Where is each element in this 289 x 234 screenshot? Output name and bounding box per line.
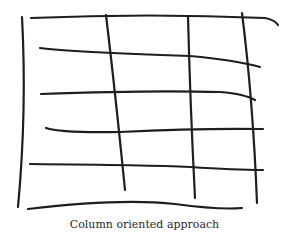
- diagram-caption: Column oriented approach: [0, 218, 289, 231]
- row-line-2: [40, 48, 260, 67]
- column-line-2: [188, 16, 195, 198]
- row-line-1: [31, 16, 278, 26]
- column-line-1: [106, 15, 125, 190]
- hand-drawn-grid: [0, 0, 289, 234]
- bottom-line: [28, 202, 242, 209]
- row-line-3: [41, 91, 255, 100]
- left-border-line: [18, 17, 24, 207]
- column-line-3: [242, 13, 257, 203]
- row-line-4: [46, 128, 263, 132]
- row-line-5: [30, 164, 263, 170]
